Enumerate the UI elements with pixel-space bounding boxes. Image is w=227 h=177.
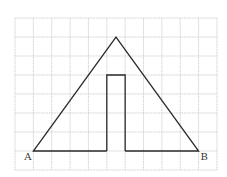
point-label-b: B	[201, 151, 208, 162]
grid	[15, 18, 217, 170]
diagram-canvas: A B	[0, 0, 227, 177]
point-label-a: A	[23, 151, 32, 162]
